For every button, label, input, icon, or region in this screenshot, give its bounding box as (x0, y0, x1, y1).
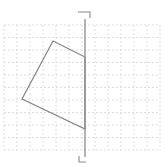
line-end-tick-top (78, 12, 90, 18)
grid (4, 25, 160, 150)
geometry-figure (0, 0, 168, 167)
reflection-diagram-canvas (0, 0, 168, 167)
quadrilateral-shape (22, 41, 85, 129)
